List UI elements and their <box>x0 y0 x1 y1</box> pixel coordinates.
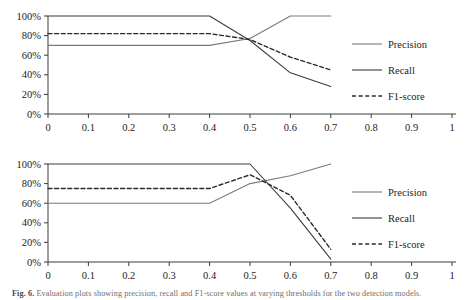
y-axis-tick-label: 80% <box>22 30 42 41</box>
x-axis-tick-label: 0.2 <box>122 122 135 133</box>
chart-svg: 0%20%40%60%80%100%00.10.20.30.40.50.60.7… <box>0 150 465 290</box>
y-axis-tick-label: 60% <box>22 198 42 209</box>
series-line-recall <box>48 164 331 259</box>
series-line-f1-score <box>48 175 331 249</box>
y-axis-tick-label: 100% <box>17 11 42 22</box>
figure-caption: Fig. 6. Evaluation plots showing precisi… <box>12 289 465 299</box>
y-axis-tick-label: 20% <box>22 237 42 248</box>
x-axis-tick-label: 0 <box>45 122 50 133</box>
caption-text: Evaluation plots showing precision, reca… <box>36 289 421 298</box>
y-axis-tick-label: 100% <box>17 159 42 170</box>
x-axis-tick-label: 0.8 <box>365 122 378 133</box>
x-axis-tick-label: 0.6 <box>284 270 297 281</box>
y-axis-tick-label: 60% <box>22 50 42 61</box>
chart-top: 0%20%40%60%80%100%00.10.20.30.40.50.60.7… <box>0 2 465 142</box>
y-axis-tick-label: 40% <box>22 69 42 80</box>
series-line-f1-score <box>48 34 331 70</box>
caption-label: Fig. 6. <box>12 289 34 298</box>
series-line-recall <box>48 16 331 87</box>
x-axis-tick-label: 0.9 <box>405 270 418 281</box>
y-axis-tick-label: 0% <box>27 257 41 268</box>
y-axis-tick-label: 40% <box>22 217 42 228</box>
legend-label-f1-score: F1-score <box>388 91 425 102</box>
x-axis-tick-label: 0.7 <box>324 270 337 281</box>
series-line-precision <box>48 164 331 203</box>
y-axis-tick-label: 20% <box>22 89 42 100</box>
x-axis-tick-label: 1 <box>449 122 454 133</box>
series-line-precision <box>48 16 331 45</box>
x-axis-tick-label: 0.5 <box>243 270 256 281</box>
x-axis-tick-label: 0.4 <box>203 122 217 133</box>
legend-label-recall: Recall <box>388 213 415 224</box>
x-axis-tick-label: 0.2 <box>122 270 135 281</box>
x-axis-tick-label: 0.1 <box>82 122 95 133</box>
x-axis-tick-label: 0.4 <box>203 270 217 281</box>
chart-bottom: 0%20%40%60%80%100%00.10.20.30.40.50.60.7… <box>0 150 465 290</box>
legend-label-precision: Precision <box>388 187 428 198</box>
legend-label-recall: Recall <box>388 65 415 76</box>
legend-label-precision: Precision <box>388 39 428 50</box>
legend-label-f1-score: F1-score <box>388 239 425 250</box>
x-axis-tick-label: 0.3 <box>163 270 176 281</box>
figure-container: 0%20%40%60%80%100%00.10.20.30.40.50.60.7… <box>0 0 465 300</box>
x-axis-tick-label: 0.7 <box>324 122 337 133</box>
x-axis-tick-label: 0.6 <box>284 122 297 133</box>
x-axis-tick-label: 0.5 <box>243 122 256 133</box>
x-axis-tick-label: 0.9 <box>405 122 418 133</box>
y-axis-tick-label: 80% <box>22 178 42 189</box>
x-axis-tick-label: 0.3 <box>163 122 176 133</box>
y-axis-tick-label: 0% <box>27 109 41 120</box>
x-axis-tick-label: 0.8 <box>365 270 378 281</box>
x-axis-tick-label: 1 <box>449 270 454 281</box>
chart-svg: 0%20%40%60%80%100%00.10.20.30.40.50.60.7… <box>0 2 465 142</box>
x-axis-tick-label: 0.1 <box>82 270 95 281</box>
x-axis-tick-label: 0 <box>45 270 50 281</box>
